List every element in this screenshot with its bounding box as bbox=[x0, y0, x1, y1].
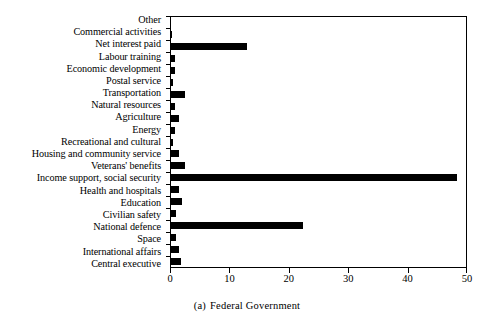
bar-row bbox=[171, 29, 466, 41]
category-label: Energy bbox=[0, 124, 166, 136]
bar-row bbox=[171, 148, 466, 160]
bar-row bbox=[171, 124, 466, 136]
figure-federal-government-bar-chart: OtherCommercial activitiesNet interest p… bbox=[0, 0, 494, 328]
bar-row bbox=[171, 196, 466, 208]
bar bbox=[171, 67, 175, 74]
bar bbox=[171, 234, 176, 241]
bar bbox=[171, 31, 172, 38]
category-label: Civilian safety bbox=[0, 209, 166, 221]
x-axis-tick-label: 20 bbox=[284, 274, 295, 285]
bar-row bbox=[171, 17, 466, 29]
bar-row bbox=[171, 243, 466, 255]
x-axis-tick-label: 50 bbox=[462, 274, 473, 285]
bar bbox=[171, 174, 457, 181]
bar bbox=[171, 115, 179, 122]
bar-row bbox=[171, 53, 466, 65]
bar bbox=[171, 139, 173, 146]
bar bbox=[171, 91, 185, 98]
bar bbox=[171, 210, 176, 217]
x-axis-tick-label: 10 bbox=[224, 274, 235, 285]
figure-caption: (a)Federal Government bbox=[0, 300, 494, 311]
category-label: Veterans' benefits bbox=[0, 160, 166, 172]
category-label: Economic development bbox=[0, 63, 166, 75]
bar bbox=[171, 103, 175, 110]
category-label: Recreational and cultural bbox=[0, 136, 166, 148]
x-axis-tick-label: 40 bbox=[402, 274, 413, 285]
caption-index: (a) bbox=[194, 300, 206, 311]
bar-row bbox=[171, 65, 466, 77]
bar-row bbox=[171, 41, 466, 53]
category-label: National defence bbox=[0, 221, 166, 233]
category-label: Net interest paid bbox=[0, 38, 166, 50]
bar bbox=[171, 198, 182, 205]
category-label: Postal service bbox=[0, 75, 166, 87]
bar-row bbox=[171, 88, 466, 100]
category-label: Other bbox=[0, 14, 166, 26]
bar bbox=[171, 222, 303, 229]
bar bbox=[171, 162, 185, 169]
bar bbox=[171, 127, 175, 134]
category-label: Health and hospitals bbox=[0, 185, 166, 197]
caption-text: Federal Government bbox=[210, 300, 300, 311]
category-label: Education bbox=[0, 197, 166, 209]
bar-row bbox=[171, 255, 466, 267]
bar-row bbox=[171, 100, 466, 112]
x-axis-tick-label: 30 bbox=[343, 274, 354, 285]
bar-row bbox=[171, 219, 466, 231]
bar-row bbox=[171, 184, 466, 196]
x-axis-tick-label: 0 bbox=[167, 274, 172, 285]
bar-row bbox=[171, 160, 466, 172]
bar-row bbox=[171, 172, 466, 184]
category-label: Housing and community service bbox=[0, 148, 166, 160]
bar-row bbox=[171, 77, 466, 89]
bar bbox=[171, 55, 175, 62]
category-label: Income support, social security bbox=[0, 172, 166, 184]
bar bbox=[171, 186, 179, 193]
bar-row bbox=[171, 112, 466, 124]
plot-area bbox=[170, 16, 467, 268]
bar bbox=[171, 246, 179, 253]
bar bbox=[171, 43, 247, 50]
category-label: Transportation bbox=[0, 87, 166, 99]
category-label: Agriculture bbox=[0, 112, 166, 124]
category-label: International affairs bbox=[0, 246, 166, 258]
x-axis-tick-labels: 01020304050 bbox=[170, 274, 467, 288]
bar-row bbox=[171, 231, 466, 243]
category-label: Space bbox=[0, 233, 166, 245]
bar-series bbox=[171, 17, 466, 267]
category-label: Central executive bbox=[0, 258, 166, 270]
bar bbox=[171, 79, 173, 86]
category-label: Labour training bbox=[0, 51, 166, 63]
bar-row bbox=[171, 136, 466, 148]
bar bbox=[171, 258, 181, 265]
category-label-column: OtherCommercial activitiesNet interest p… bbox=[0, 14, 166, 270]
bar-row bbox=[171, 208, 466, 220]
category-label: Commercial activities bbox=[0, 26, 166, 38]
category-label: Natural resources bbox=[0, 99, 166, 111]
bar bbox=[171, 150, 179, 157]
